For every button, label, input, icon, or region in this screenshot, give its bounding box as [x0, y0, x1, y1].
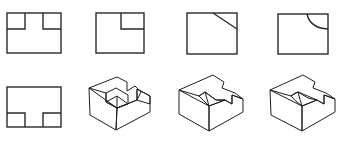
solid-stepped-block-notch	[89, 77, 150, 130]
view-two-corner-notches	[7, 13, 61, 53]
view-one-corner-notch	[96, 13, 144, 53]
solid-stepped-block-curved	[270, 75, 335, 131]
view-rounded-corner-cut	[278, 14, 328, 54]
solid-stepped-block-chamfer	[179, 75, 243, 131]
figure-canvas	[0, 0, 344, 144]
front-view-t-shape	[7, 87, 61, 127]
view-chamfer-corner	[187, 13, 237, 54]
